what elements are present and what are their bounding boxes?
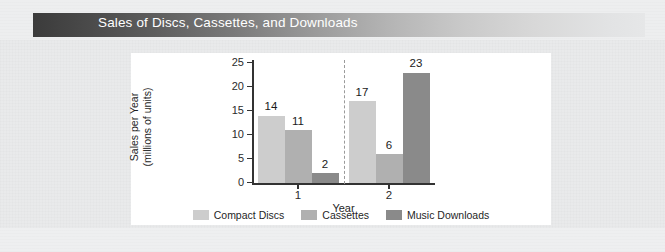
y-axis-tick — [247, 86, 253, 88]
bar-value-label: 2 — [312, 158, 339, 170]
y-axis-title: Sales per Year (millions of units) — [128, 75, 153, 179]
legend-label: Cassettes — [322, 209, 369, 221]
y-axis-title-line1: Sales per Year — [128, 75, 141, 179]
y-axis-tick-label-text: 10 — [228, 128, 244, 140]
legend-label: Compact Discs — [214, 209, 285, 221]
y-axis-tick-label-text: 20 — [228, 80, 244, 92]
bar-value-label: 11 — [285, 115, 312, 127]
bar — [376, 154, 403, 183]
bar — [349, 101, 376, 183]
y-axis-tick-label-text: 0 — [228, 176, 244, 188]
y-axis-tick-label-text: 5 — [228, 152, 244, 164]
bar — [312, 173, 339, 183]
page-title: Sales of Discs, Cassettes, and Downloads — [98, 15, 358, 30]
bar — [403, 73, 430, 183]
y-axis-tick-label-text: 15 — [228, 104, 244, 116]
bar-chart-plot: Sales per Year (millions of units) 05101… — [131, 53, 551, 225]
y-axis-tick — [247, 134, 253, 136]
bar-value-label: 6 — [376, 139, 403, 151]
legend-swatch — [301, 210, 317, 220]
y-axis-line — [252, 60, 254, 184]
bar-value-label: 17 — [349, 86, 376, 98]
page-root: Sales of Discs, Cassettes, and Downloads… — [0, 0, 665, 252]
y-axis-tick — [247, 182, 253, 184]
x-axis-tick-label: 1 — [288, 189, 308, 201]
bar — [285, 130, 312, 183]
y-axis-tick — [247, 62, 253, 64]
legend-item: Compact Discs — [193, 209, 285, 221]
y-axis-title-line2: (millions of units) — [141, 75, 154, 179]
legend-item: Cassettes — [301, 209, 369, 221]
y-axis-tick — [247, 158, 253, 160]
chart-legend: Compact DiscsCassettesMusic Downloads — [131, 209, 551, 221]
y-axis-tick-label-text: 25 — [228, 56, 244, 68]
y-axis-tick — [247, 110, 253, 112]
bar-value-label: 14 — [258, 100, 285, 112]
background-strip-bottom — [0, 228, 665, 252]
legend-label: Music Downloads — [407, 209, 489, 221]
x-axis-tick-label: 2 — [379, 189, 399, 201]
year-group-divider — [344, 60, 345, 184]
legend-swatch — [386, 210, 402, 220]
legend-swatch — [193, 210, 209, 220]
bar — [258, 116, 285, 183]
legend-item: Music Downloads — [386, 209, 489, 221]
bar-value-label: 23 — [403, 57, 430, 69]
chart-card: Sales per Year (millions of units) 05101… — [131, 53, 551, 225]
